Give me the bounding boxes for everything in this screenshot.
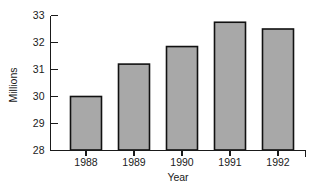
x-axis-title: Year [167,171,189,183]
y-tick-label: 31 [33,63,45,75]
y-tick-label: 30 [33,90,45,102]
chart-canvas: 282930313233 19881989199019911992 Millio… [0,0,319,187]
y-tick-label: 33 [33,9,45,21]
y-tick-label: 29 [33,117,45,129]
bar-1989 [119,64,150,150]
bar-1990 [167,47,198,150]
y-axis-ticks: 282930313233 [33,9,58,156]
x-tick-label: 1992 [266,156,290,168]
x-axis-ticks: 19881989199019911992 [74,151,290,168]
x-tick-label: 1989 [122,156,146,168]
y-tick-label: 32 [33,36,45,48]
x-tick-label: 1990 [170,156,194,168]
bars-group [71,22,294,150]
y-tick-label: 28 [33,144,45,156]
bar-1988 [71,97,102,151]
bar-1992 [263,29,294,150]
x-tick-label: 1988 [74,156,98,168]
bar-1991 [215,22,246,150]
x-tick-label: 1991 [218,156,242,168]
bar-chart-figure: 282930313233 19881989199019911992 Millio… [0,0,319,187]
y-axis-title: Millions [7,67,19,102]
